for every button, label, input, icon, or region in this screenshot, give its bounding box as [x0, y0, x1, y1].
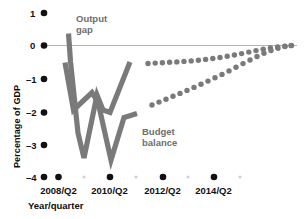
- y-tick-label-1: 1: [30, 8, 35, 19]
- chart-container: 1 0 –1 –2 –3 –4 Percentage of GDP 2008/Q…: [0, 0, 308, 219]
- y-axis-title: Percentage of GDP: [12, 85, 22, 168]
- y-tick-label-neg3: –3: [26, 140, 37, 151]
- series-budget-balance-dotted: [149, 43, 294, 108]
- y-tick-label-neg2: –2: [26, 107, 37, 118]
- x-tick-label-2014: 2014/Q2: [176, 185, 251, 196]
- x-axis-title: Year/quarter: [28, 200, 83, 211]
- y-tick-label-neg4: –4: [26, 172, 37, 183]
- series-output-gap-solid: [69, 34, 131, 159]
- annotation-output-gap: Output gap: [76, 14, 107, 35]
- y-tick-label-neg1: –1: [26, 74, 37, 85]
- y-tick-label-0: 0: [30, 40, 35, 51]
- series-output-gap-dotted: [145, 43, 293, 66]
- annotation-budget-balance: Budget balance: [142, 127, 177, 148]
- y-axis-tick-dots: [41, 10, 48, 181]
